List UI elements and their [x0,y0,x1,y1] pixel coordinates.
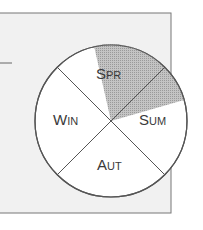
season-wheel-diagram: SPR SUM AUT WIN [0,0,203,230]
